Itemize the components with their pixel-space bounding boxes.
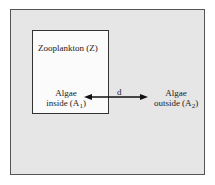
algae-outside-label: Algae outside (A2) [148, 88, 204, 108]
algae-inside-label: Algae inside (A1) [44, 88, 88, 108]
bidirectional-arrow-icon [84, 92, 148, 102]
zooplankton-label: Zooplankton (Z) [38, 43, 98, 53]
